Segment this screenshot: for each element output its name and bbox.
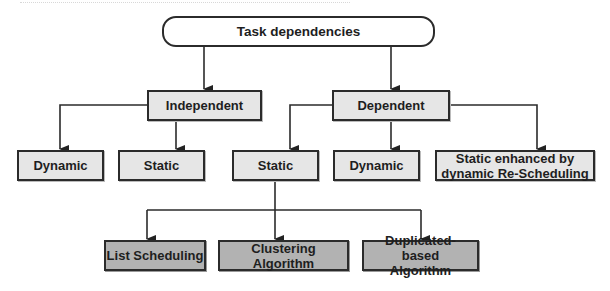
root-task-dependencies: Task dependencies [162,16,435,47]
node-duplicated-based-algorithm: Duplicated-based Algorithm [362,240,479,271]
node-dependent-dynamic: Dynamic [333,150,420,181]
node-independent-static: Static [118,150,205,181]
node-clustering-algorithm: Clustering Algorithm [218,240,349,271]
node-dependent: Dependent [332,90,450,121]
node-static-enhanced-rescheduling: Static enhanced by dynamic Re-Scheduling [435,150,595,181]
node-list-scheduling: List Scheduling [104,240,206,271]
node-independent-dynamic: Dynamic [17,150,104,181]
node-dependent-static: Static [232,150,319,181]
task-dependencies-diagram: Task dependencies Independent Dependent … [0,0,610,291]
node-independent: Independent [147,90,262,121]
